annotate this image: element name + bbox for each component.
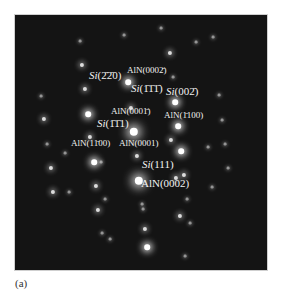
diffraction-spot [184, 255, 187, 258]
label-aln-000m2: AlN(0002̄) [127, 66, 167, 75]
diffraction-spot [101, 232, 104, 235]
diffraction-spot [211, 186, 214, 189]
label-aln-0001: AlN(0001) [119, 139, 159, 148]
diffraction-spot [172, 76, 175, 79]
diffraction-spot [172, 99, 178, 105]
diffraction-spot [141, 203, 144, 206]
label-aln-0002: AlN(0002) [141, 178, 189, 189]
label-aln-1m100: AlN(11̄00) [71, 139, 110, 148]
diffraction-spot [218, 94, 221, 97]
diffraction-spot [227, 167, 230, 170]
diffraction-spot [68, 191, 71, 194]
diffraction-spot [160, 27, 163, 30]
figure-caption: (a) [15, 277, 27, 289]
diffraction-spot [91, 159, 97, 165]
diffraction-spot [221, 119, 224, 122]
diffraction-spot [85, 111, 91, 117]
diffraction-spot [46, 143, 49, 146]
label-si-m1m11: Si(1̄1̄1) [97, 118, 129, 129]
diffraction-spot [64, 152, 67, 155]
label-aln-m1100: AlN(1̄100) [164, 111, 203, 120]
diffraction-spot [224, 143, 227, 146]
label-si-111: Si(111) [142, 159, 174, 170]
label-si-00m2: Si(002̄) [166, 86, 198, 97]
diffraction-spot [125, 79, 131, 85]
diffraction-spot [144, 244, 150, 250]
diffraction-spot [100, 161, 103, 164]
label-si-m2m20: Si(2̄2̄0) [89, 70, 121, 81]
diffraction-spot [104, 198, 107, 201]
diffraction-spot [109, 238, 112, 241]
diffraction-spot [178, 148, 184, 154]
diffraction-spot [212, 36, 215, 39]
diffraction-spot [207, 146, 210, 149]
diffraction-spot [79, 40, 82, 43]
label-si-m1m1m1: Si(1̄1̄1̄) [131, 83, 163, 94]
diffraction-spot [175, 123, 181, 129]
diffraction-spot [40, 95, 43, 98]
diffraction-spot [123, 34, 126, 37]
diffraction-spot [189, 222, 192, 225]
label-aln-000m1: AlN(0001̄) [111, 107, 151, 116]
diffraction-spot [142, 208, 145, 211]
diffraction-spot [186, 198, 189, 201]
diffraction-spot [195, 41, 198, 44]
